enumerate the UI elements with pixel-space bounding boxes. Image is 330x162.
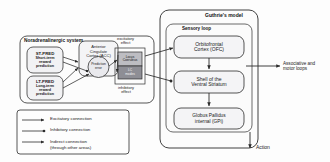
- node-locus-coeruleus: [118, 52, 142, 66]
- panel-title-sensory-loop: Sensory loop: [182, 26, 211, 31]
- legend-label-inhibitory-connection: Inhibitory connection: [50, 128, 90, 133]
- diagram-vector-layer: [0, 0, 330, 162]
- annotation-action-output: Action: [256, 145, 270, 151]
- panel-title-noradrenergic-system: Noradrenalinergic system: [24, 38, 83, 43]
- diagram-canvas: Noradrenalinergic system Guthrie's model…: [0, 0, 330, 162]
- node-prediction-error: [88, 57, 109, 78]
- node-lt-pred: [27, 76, 63, 100]
- annotation-excitatory-effect: excitatory effect: [117, 37, 134, 46]
- annotation-associative-motor-loops: Associative and motor loops: [283, 61, 315, 71]
- node-gpi: [174, 108, 244, 129]
- legend-label-excitatory-connection: Excitatory connection: [50, 117, 92, 122]
- node-st-pred: [27, 47, 63, 73]
- node-ventral-striatum: [174, 71, 244, 93]
- annotation-inhibitory-effect: inhibitory effect: [118, 86, 134, 95]
- panel-title-guthries-model: Guthrie's model: [205, 13, 243, 19]
- node-ofc: [174, 36, 244, 58]
- node-lc-mode: [118, 66, 142, 79]
- legend-label-indirect-connection: Indirect connection (through other areas…: [50, 139, 91, 150]
